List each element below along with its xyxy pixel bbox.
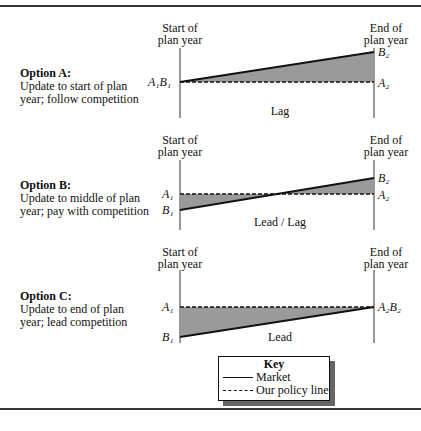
- option-b-start-label: Start ofplan year: [145, 134, 215, 158]
- option-b-left-top-point: A₁: [162, 187, 174, 202]
- legend-policy-label: Our policy line: [256, 384, 329, 397]
- option-a-left-point: A₁B₁: [148, 75, 171, 90]
- option-b-right-top-point: B₂: [378, 171, 390, 186]
- option-c-left-bottom-point: B₁: [162, 330, 174, 345]
- option-a-start-label: Start ofplan year: [145, 22, 215, 46]
- option-a-right-bottom-point: A₂: [378, 76, 390, 91]
- option-c-end-label: End ofplan year: [351, 246, 421, 270]
- option-c-description: Option C: Update to end of plan year; le…: [20, 290, 127, 329]
- legend-item-policy: Our policy line: [219, 384, 329, 397]
- bottom-rule: [0, 408, 421, 410]
- option-c-right-point: A₂B₂: [378, 300, 401, 315]
- dashed-line-swatch: [223, 390, 253, 391]
- solid-line-swatch: [223, 377, 253, 378]
- option-c-left-top-point: A₁: [162, 300, 174, 315]
- option-a-description: Option A: Update to start of plan year; …: [20, 67, 139, 106]
- option-a-end-label: End ofplan year: [351, 22, 421, 46]
- option-c-region-label: Lead: [220, 330, 340, 345]
- option-a-region-label: Lag: [220, 104, 340, 119]
- option-b-right-bottom-point: A₂: [378, 188, 390, 203]
- legend-key: Key Market Our policy line: [218, 356, 330, 401]
- option-a-desc-line2: year; follow competition: [20, 93, 139, 106]
- option-b-desc-line2: year; pay with competition: [20, 205, 149, 218]
- option-c-start-label: Start ofplan year: [145, 246, 215, 270]
- option-a-right-top-point: B₂: [378, 45, 390, 60]
- option-b-left-bottom-point: B₁: [162, 203, 174, 218]
- option-b-region-label: Lead / Lag: [220, 215, 340, 230]
- option-b-description: Option B: Update to middle of plan year;…: [20, 179, 149, 218]
- option-b-end-label: End ofplan year: [351, 134, 421, 158]
- option-c-desc-line2: year; lead competition: [20, 316, 127, 329]
